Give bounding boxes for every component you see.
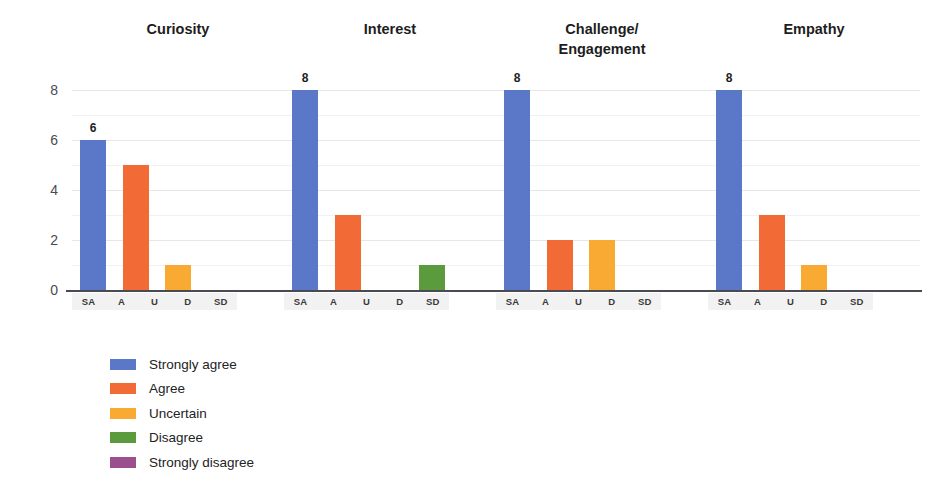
legend-swatch-icon [110,457,136,468]
panel-title-line-1: Challenge/ [496,20,708,40]
bar-slot-A [750,90,792,290]
bar-slot-U [369,90,411,290]
x-axis-tick-labels: SAAUDSD [72,293,237,310]
y-tick-label-2: 2 [24,232,58,248]
legend-item[interactable]: Disagree [110,426,254,451]
legend-item[interactable]: Agree [110,377,254,402]
bar-slot-A [114,90,156,290]
x-tick-label-SD: SD [628,296,661,307]
x-tick-label-SD: SD [204,296,237,307]
x-tick-label-SA: SA [496,296,529,307]
bar-A[interactable] [123,165,149,290]
bar-slot-SA: 8 [284,90,326,290]
legend-swatch-icon [110,432,136,443]
x-tick-label-D: D [383,296,416,307]
legend-swatch-icon [110,359,136,370]
bar-set: 8 [708,90,920,290]
y-tick-label-0: 0 [24,282,58,298]
legend-item[interactable]: Strongly agree [110,352,254,377]
bar-U[interactable] [589,240,615,290]
bar-U[interactable] [165,265,191,290]
bar-value-label: 8 [302,71,309,85]
legend-item-label: Agree [149,381,185,396]
bar-value-label: 8 [514,71,521,85]
x-tick-label-SA: SA [284,296,317,307]
bar-SA[interactable]: 8 [504,90,530,290]
x-tick-label-U: U [138,296,171,307]
panel-title-line-1: Curiosity [72,20,284,40]
legend-item-label: Strongly agree [149,357,237,372]
y-tick-label-4: 4 [24,182,58,198]
x-tick-label-D: D [595,296,628,307]
panel-empathy: Empathy8SAAUDSD [708,0,920,300]
bar-slot-SA: 8 [708,90,750,290]
panel-title-line-1: Empathy [708,20,920,40]
legend: Strongly agreeAgreeUncertainDisagreeStro… [110,352,254,475]
plot-area: 02468 Curiosity6SAAUDSDInterest8SAAUDSDC… [0,0,929,300]
x-tick-label-A: A [105,296,138,307]
panel-title: Interest [284,20,496,40]
legend-item[interactable]: Strongly disagree [110,450,254,475]
bar-set: 8 [496,90,708,290]
panel-title: Curiosity [72,20,284,40]
bar-U[interactable] [801,265,827,290]
x-tick-label-SD: SD [416,296,449,307]
x-tick-label-A: A [317,296,350,307]
bar-slot-U [157,90,199,290]
bar-slot-D [835,90,877,290]
bar-SA[interactable]: 8 [716,90,742,290]
bar-slot-SA: 6 [72,90,114,290]
panel-title: Challenge/Engagement [496,20,708,59]
panel-title-line-1: Interest [284,20,496,40]
bar-slot-U [793,90,835,290]
bar-slot-SA: 8 [496,90,538,290]
x-tick-label-D: D [807,296,840,307]
x-tick-label-D: D [171,296,204,307]
bar-D[interactable] [419,265,445,290]
x-tick-label-A: A [741,296,774,307]
bar-slot-A [326,90,368,290]
bar-slot-SD [454,90,496,290]
legend-item-label: Uncertain [149,406,207,421]
x-tick-label-U: U [350,296,383,307]
bar-A[interactable] [335,215,361,290]
bar-slot-U [581,90,623,290]
x-tick-label-U: U [774,296,807,307]
x-tick-label-SA: SA [72,296,105,307]
panel-curiosity: Curiosity6SAAUDSD [72,0,284,300]
bar-slot-D [411,90,453,290]
bar-slot-D [623,90,665,290]
bar-slot-SD [666,90,708,290]
x-tick-label-U: U [562,296,595,307]
bar-slot-A [538,90,580,290]
legend-item[interactable]: Uncertain [110,401,254,426]
legend-item-label: Disagree [149,430,203,445]
panel-challenge-engagement: Challenge/Engagement8SAAUDSD [496,0,708,300]
legend-swatch-icon [110,408,136,419]
x-axis-tick-labels: SAAUDSD [496,293,661,310]
bar-SA[interactable]: 6 [80,140,106,290]
bar-slot-D [199,90,241,290]
grouped-bar-chart: 02468 Curiosity6SAAUDSDInterest8SAAUDSDC… [0,0,929,488]
bar-value-label: 8 [726,71,733,85]
bar-SA[interactable]: 8 [292,90,318,290]
panel-title: Empathy [708,20,920,40]
x-tick-label-SA: SA [708,296,741,307]
legend-swatch-icon [110,383,136,394]
bar-A[interactable] [759,215,785,290]
legend-item-label: Strongly disagree [149,455,254,470]
panel-title-line-2: Engagement [496,40,708,60]
x-tick-label-A: A [529,296,562,307]
x-axis-tick-labels: SAAUDSD [284,293,449,310]
bar-slot-SD [878,90,920,290]
bar-set: 6 [72,90,284,290]
bar-slot-SD [242,90,284,290]
y-tick-label-6: 6 [24,132,58,148]
x-axis-tick-labels: SAAUDSD [708,293,873,310]
bar-A[interactable] [547,240,573,290]
y-tick-label-8: 8 [24,82,58,98]
bar-value-label: 6 [90,121,97,135]
x-tick-label-SD: SD [840,296,873,307]
bar-set: 8 [284,90,496,290]
panel-interest: Interest8SAAUDSD [284,0,496,300]
